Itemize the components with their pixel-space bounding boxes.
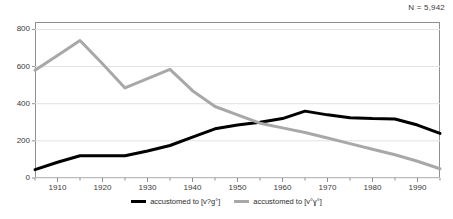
data-series bbox=[35, 41, 440, 170]
x-tick-label-1910: 1910 bbox=[38, 183, 78, 192]
y-tick-label-600: 600 bbox=[4, 62, 30, 71]
y-tick-label-800: 800 bbox=[4, 24, 30, 33]
x-tick-label-1990: 1990 bbox=[398, 183, 438, 192]
legend-swatch-icon-2 bbox=[234, 200, 249, 203]
x-tick-label-1970: 1970 bbox=[308, 183, 348, 192]
legend-item-1[interactable]: accustomed to [v?g°] bbox=[131, 197, 220, 206]
x-tick-label-1950: 1950 bbox=[218, 183, 258, 192]
x-tick-label-1930: 1930 bbox=[128, 183, 168, 192]
y-tick-label-0: 0 bbox=[4, 173, 30, 182]
x-tick-label-1920: 1920 bbox=[83, 183, 123, 192]
y-tick-label-400: 400 bbox=[4, 99, 30, 108]
legend-label-2: accustomed to [v°ɣ°] bbox=[253, 197, 322, 206]
y-tick-label-200: 200 bbox=[4, 136, 30, 145]
line-chart: N = 5,942 8006004002000 1910192019301940… bbox=[0, 0, 453, 219]
x-tick-label-1940: 1940 bbox=[173, 183, 213, 192]
legend-label-1: accustomed to [v?g°] bbox=[150, 197, 220, 206]
legend-item-2[interactable]: accustomed to [v°ɣ°] bbox=[234, 197, 322, 206]
legend-swatch-icon-1 bbox=[131, 200, 146, 203]
x-tick-label-1960: 1960 bbox=[263, 183, 303, 192]
series-line-2 bbox=[35, 41, 440, 169]
chart-legend: accustomed to [v?g°]accustomed to [v°ɣ°] bbox=[0, 197, 453, 206]
x-tick-label-1980: 1980 bbox=[353, 183, 393, 192]
